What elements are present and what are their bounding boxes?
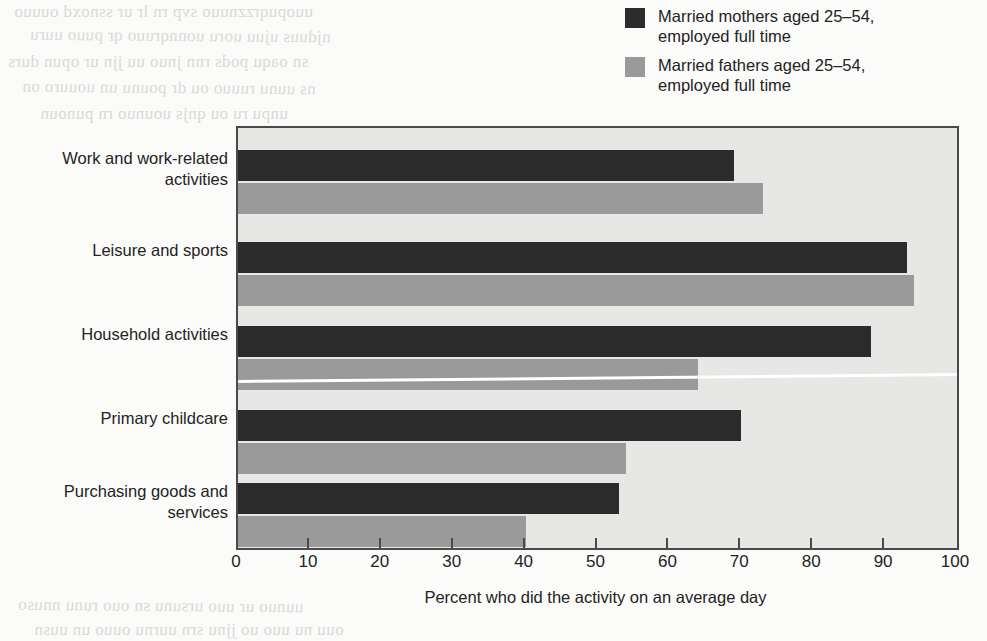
legend-label-mothers: Married mothers aged 25–54, employed ful… (658, 6, 874, 46)
x-tick-label-70: 70 (730, 552, 749, 572)
x-tick-label-40: 40 (514, 552, 533, 572)
x-tick-label-90: 90 (874, 552, 893, 572)
category-label-childcare: Primary childcare (0, 408, 228, 429)
bar-mothers-3 (238, 410, 741, 441)
page-bleedthrough-artifact: ns uunu ruuuo ou dr pounu un uouuro on (22, 77, 316, 100)
bar-mothers-0 (238, 150, 734, 181)
x-tick-mark-60 (666, 538, 668, 548)
x-tick-label-100: 100 (941, 552, 969, 572)
x-tick-label-60: 60 (658, 552, 677, 572)
bar-fathers-4 (238, 516, 526, 547)
page-bleedthrough-artifact: njduus ujuu uoru uonnqruuo qr puuo uuru (30, 25, 331, 48)
x-tick-label-0: 0 (231, 552, 240, 572)
x-axis-title: Percent who did the activity on an avera… (236, 588, 955, 607)
x-tick-label-20: 20 (370, 552, 389, 572)
category-label-work: Work and work-related activities (0, 148, 228, 190)
category-label-leisure: Leisure and sports (0, 240, 228, 261)
x-tick-mark-30 (451, 538, 453, 548)
bar-fathers-0 (238, 183, 763, 214)
page-bleedthrough-artifact: uuopuqrzznuuo svp rn lr ur ssnoxd ouuuo (14, 2, 313, 22)
x-tick-mark-80 (810, 538, 812, 548)
plot-area (236, 126, 959, 550)
bar-fathers-1 (238, 275, 914, 306)
category-label-purchasing: Purchasing goods and services (0, 481, 228, 523)
x-tick-label-50: 50 (586, 552, 605, 572)
legend-label-fathers: Married fathers aged 25–54, employed ful… (658, 55, 865, 95)
bar-mothers-4 (238, 483, 619, 514)
chart-legend: Married mothers aged 25–54, employed ful… (625, 6, 965, 104)
x-tick-label-30: 30 (442, 552, 461, 572)
x-tick-label-10: 10 (298, 552, 317, 572)
x-tick-label-80: 80 (802, 552, 821, 572)
x-tick-mark-70 (738, 538, 740, 548)
x-tick-mark-50 (595, 538, 597, 548)
legend-swatch-fathers (625, 57, 645, 77)
x-tick-mark-10 (307, 538, 309, 548)
page-bleedthrough-artifact: unpu ru ou qnjs uounuo rn punoun (40, 104, 288, 124)
page-bleedthrough-artifact: ouu nu uuo uo jjnu srn uurnu ouuo un uus… (34, 620, 344, 640)
x-tick-mark-90 (882, 538, 884, 548)
bar-fathers-3 (238, 443, 626, 474)
y-axis-category-labels: Work and work-related activities Leisure… (0, 126, 228, 546)
bar-mothers-2 (238, 326, 871, 357)
bar-mothers-1 (238, 242, 907, 273)
legend-swatch-mothers (625, 8, 645, 28)
x-tick-mark-40 (523, 538, 525, 548)
legend-item: Married fathers aged 25–54, employed ful… (625, 55, 965, 95)
bar-fathers-2 (238, 359, 698, 390)
page-bleedthrough-artifact: sn oaqu pods rnn jnuo uu jjn ur opun dur… (8, 52, 308, 72)
x-tick-mark-20 (379, 538, 381, 548)
chart-page: uuopuqrzznuuo svp rn lr ur ssnoxd ouuuo … (0, 0, 987, 641)
legend-item: Married mothers aged 25–54, employed ful… (625, 6, 965, 46)
category-label-household: Household activities (0, 324, 228, 345)
